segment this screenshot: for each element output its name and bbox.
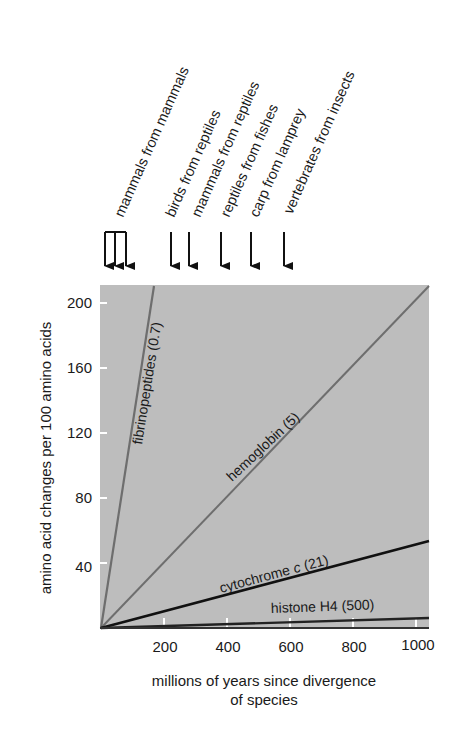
divergence-labels: mammals from mammals birds from reptiles… <box>111 64 358 219</box>
svg-text:1000: 1000 <box>401 636 434 653</box>
svg-text:40: 40 <box>75 558 92 575</box>
svg-text:200: 200 <box>152 638 177 655</box>
chart-svg: fibrinopeptides (0.7) hemoglobin (5) cyt… <box>0 0 458 737</box>
divergence-arrows <box>105 232 284 266</box>
svg-text:400: 400 <box>215 638 240 655</box>
x-tick-labels: 200 400 600 800 1000 <box>152 636 434 655</box>
y-tick-labels: 200 160 120 80 40 <box>67 294 92 575</box>
svg-text:200: 200 <box>67 294 92 311</box>
svg-text:800: 800 <box>341 638 366 655</box>
svg-text:120: 120 <box>67 424 92 441</box>
svg-text:80: 80 <box>75 489 92 506</box>
y-axis-label: amino acid changes per 100 amino acids <box>37 322 54 595</box>
svg-text:160: 160 <box>67 359 92 376</box>
x-axis-label-line1: millions of years since divergence <box>152 672 376 689</box>
svg-text:600: 600 <box>278 638 303 655</box>
x-axis-label-line2: of species <box>230 691 298 708</box>
